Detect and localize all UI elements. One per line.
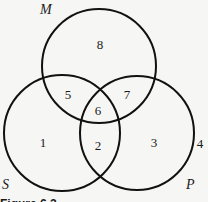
set-m-label: M: [39, 2, 53, 17]
set-p-circle: [80, 76, 194, 190]
region-s-only: 1: [40, 135, 47, 150]
region-outside: 4: [197, 136, 204, 151]
set-s-label: S: [2, 177, 9, 192]
figure-caption: Figure 6.2: [0, 197, 57, 202]
region-s-p: 2: [95, 138, 102, 153]
region-p-only: 3: [151, 135, 158, 150]
set-s-circle: [4, 75, 120, 191]
set-p-label: P: [185, 177, 195, 192]
region-m-only: 8: [97, 37, 104, 52]
venn-diagram: M S P 8 5 7 6 1 2 3 4 Figure 6.2: [0, 0, 208, 202]
region-m-s-p: 6: [95, 103, 102, 118]
region-m-p: 7: [124, 87, 131, 102]
region-m-s: 5: [65, 87, 72, 102]
